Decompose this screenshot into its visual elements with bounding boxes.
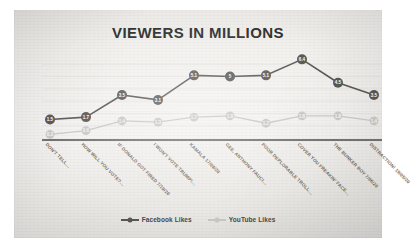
svg-text:1.7: 1.7 <box>83 115 90 120</box>
x-axis-label: GEE, ANTHONY FAUCI… <box>224 142 268 186</box>
legend-item-youtube-likes[interactable]: YouTube Likes <box>208 216 276 223</box>
svg-text:1.7: 1.7 <box>191 115 198 120</box>
svg-text:4.5: 4.5 <box>335 80 342 85</box>
svg-text:3.1: 3.1 <box>155 98 162 103</box>
svg-text:1.4: 1.4 <box>119 119 126 124</box>
chart-title: VIEWERS IN MILLIONS <box>14 24 382 41</box>
chart-panel: VIEWERS IN MILLIONS 0.30.61.41.31.71.81.… <box>14 10 382 238</box>
line-chart-svg: 0.30.61.41.31.71.81.21.81.81.41.51.73.53… <box>42 46 382 142</box>
svg-text:3.5: 3.5 <box>119 93 126 98</box>
legend-swatch-youtube <box>208 219 226 221</box>
svg-text:1.8: 1.8 <box>299 114 306 119</box>
svg-text:3.5: 3.5 <box>371 93 378 98</box>
x-axis-labels: DON'T TELL…HOW WILL YOU VOTE?…IF DONALD … <box>14 142 382 204</box>
legend-swatch-facebook <box>121 219 139 221</box>
legend-label-facebook: Facebook Likes <box>142 216 192 223</box>
plot-area: 0.30.61.41.31.71.81.21.81.81.41.51.73.53… <box>42 46 382 142</box>
svg-text:0.3: 0.3 <box>47 132 54 137</box>
legend-item-facebook-likes[interactable]: Facebook Likes <box>121 216 192 223</box>
svg-text:1.8: 1.8 <box>227 114 234 119</box>
svg-text:0.6: 0.6 <box>83 128 90 133</box>
svg-text:1.5: 1.5 <box>47 117 54 122</box>
svg-text:1.4: 1.4 <box>371 119 378 124</box>
svg-text:1.3: 1.3 <box>155 120 162 125</box>
svg-text:1.2: 1.2 <box>263 121 270 126</box>
x-axis-label: DON'T TELL… <box>44 142 71 169</box>
svg-text:5.1: 5.1 <box>263 73 270 78</box>
x-axis-label: DISTRACTION! 19/05/20 <box>368 142 411 185</box>
x-axis-label: I WON'T VOTE TRUMP!… <box>152 142 197 187</box>
svg-text:1.8: 1.8 <box>335 114 342 119</box>
svg-text:5.1: 5.1 <box>191 73 198 78</box>
svg-text:6.4: 6.4 <box>299 57 306 62</box>
chart-legend: Facebook Likes YouTube Likes <box>14 216 382 223</box>
x-axis-label: KAMALA 17/08/20 <box>188 142 221 175</box>
legend-label-youtube: YouTube Likes <box>229 216 276 223</box>
